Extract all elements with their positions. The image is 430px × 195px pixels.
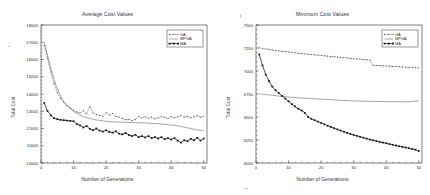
y-tick-label: 7250 xyxy=(244,46,254,51)
x-tick-label: 50 xyxy=(201,165,206,170)
x-tick-label: 50 xyxy=(416,165,421,170)
y-tick-label: 6750 xyxy=(244,92,254,97)
series-ga xyxy=(259,47,419,68)
legend-label: MA xyxy=(180,41,186,46)
y-tick-label: 10000 xyxy=(26,161,38,166)
y-tick-label: 6500 xyxy=(244,115,254,120)
y-tick-label: 13000 xyxy=(26,109,38,114)
x-tick-label: 20 xyxy=(104,165,109,170)
series-ma xyxy=(258,54,419,152)
x-tick-label: 40 xyxy=(384,165,389,170)
y-tick-label: 14000 xyxy=(26,92,38,97)
chart-legend[interactable]: GAMPGAMA xyxy=(382,30,418,47)
y-tick-label: 7500 xyxy=(244,23,254,28)
y-tick-label: 16000 xyxy=(26,57,38,62)
chart-panel-minimum-cost: Minimum Cost Values Number of Generation… xyxy=(215,0,430,195)
x-tick-label: 30 xyxy=(351,165,356,170)
y-tick-label: 17000 xyxy=(26,40,38,45)
y-tick-label: 6250 xyxy=(244,138,254,143)
y-tick-label: 11000 xyxy=(27,143,39,148)
x-tick-label: 20 xyxy=(319,165,324,170)
scan-speck xyxy=(240,14,241,18)
legend-label: MA xyxy=(395,41,401,46)
y-axis-label-minimum: Total Cost xyxy=(226,97,231,118)
y-tick-label: 6000 xyxy=(244,161,254,166)
x-tick-label: 10 xyxy=(286,165,291,170)
x-tick-label: 0 xyxy=(255,165,258,170)
y-tick-label: 18000 xyxy=(26,23,38,28)
y-tick-label: 12000 xyxy=(26,126,38,131)
chart-panel-average-cost: Average Cost Values Total Cost Number of… xyxy=(0,0,215,195)
scan-speck xyxy=(244,188,248,189)
x-tick-label: 0 xyxy=(40,165,43,170)
figure-canvas: Average Cost Values Total Cost Number of… xyxy=(0,0,430,195)
x-tick-label: 30 xyxy=(136,165,141,170)
x-tick-label: 40 xyxy=(169,165,174,170)
scan-speck xyxy=(8,46,10,47)
series-mpga xyxy=(259,94,419,102)
y-tick-label: 7000 xyxy=(244,69,254,74)
plot-area-minimum: 600062506500675070007250750001020304050G… xyxy=(215,0,430,195)
x-tick-label: 10 xyxy=(71,165,76,170)
series-ga xyxy=(44,45,204,121)
chart-legend[interactable]: GAMPGAMA xyxy=(167,30,203,47)
plot-area-average: 1000011000120001300014000150001600017000… xyxy=(0,0,215,195)
series-ma xyxy=(43,102,204,143)
y-tick-label: 15000 xyxy=(26,74,38,79)
series-mpga xyxy=(44,42,204,130)
